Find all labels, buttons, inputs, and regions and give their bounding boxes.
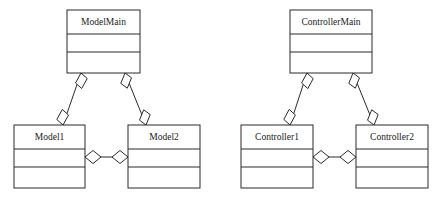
diagram-canvas: ModelMain Model1 Model2: [0, 0, 433, 199]
aggregation-diamond-source: [302, 73, 314, 89]
association-controllermain-controller2[interactable]: [349, 73, 378, 125]
class-name-label: Model1: [35, 132, 65, 142]
aggregation-diamond-target: [340, 151, 356, 164]
class-attributes-compartment: [67, 34, 140, 52]
class-attributes-compartment: [241, 149, 313, 167]
association-model1-model2[interactable]: [85, 151, 128, 164]
association-controllermain-controller1[interactable]: [284, 73, 313, 125]
class-box-controller-1[interactable]: Controller1: [241, 125, 313, 188]
class-name-label: ControllerMain: [301, 17, 360, 27]
class-box-model-main[interactable]: ModelMain: [67, 10, 140, 73]
aggregation-diamond-source: [76, 73, 88, 89]
class-attributes-compartment: [290, 34, 372, 52]
class-attributes-compartment: [14, 149, 85, 167]
class-operations-compartment: [14, 167, 85, 188]
association-modelmain-model2[interactable]: [121, 73, 150, 125]
class-operations-compartment: [241, 167, 313, 188]
class-operations-compartment: [290, 52, 372, 73]
controller-group: ControllerMain Controller1 Controller2: [241, 10, 428, 188]
class-box-model-1[interactable]: Model1: [14, 125, 85, 188]
class-attributes-compartment: [128, 149, 200, 167]
aggregation-diamond-target: [284, 109, 296, 125]
class-name-label: Controller1: [255, 132, 299, 142]
class-operations-compartment: [128, 167, 200, 188]
class-box-controller-2[interactable]: Controller2: [356, 125, 428, 188]
class-name-label: Controller2: [370, 132, 414, 142]
aggregation-diamond-source: [313, 151, 329, 164]
association-controller1-controller2[interactable]: [313, 151, 356, 164]
aggregation-diamond-source: [85, 151, 101, 164]
class-operations-compartment: [67, 52, 140, 73]
class-attributes-compartment: [356, 149, 428, 167]
class-name-label: ModelMain: [81, 17, 126, 27]
association-modelmain-model1[interactable]: [57, 73, 87, 125]
class-box-controller-main[interactable]: ControllerMain: [290, 10, 372, 73]
class-box-model-2[interactable]: Model2: [128, 125, 200, 188]
aggregation-diamond-target: [112, 151, 128, 164]
uml-class-diagram: ModelMain Model1 Model2: [0, 0, 433, 199]
model-group: ModelMain Model1 Model2: [14, 10, 200, 188]
aggregation-diamond-target: [57, 110, 69, 126]
class-name-label: Model2: [149, 132, 179, 142]
class-operations-compartment: [356, 167, 428, 188]
